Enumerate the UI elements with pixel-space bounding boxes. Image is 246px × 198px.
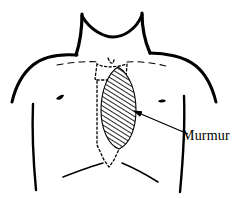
left-clavicle [57, 62, 100, 65]
right-clavicle [127, 62, 166, 66]
chest-murmur-figure: Murmur [0, 0, 246, 198]
right-costal-margin [122, 163, 158, 182]
murmur-label: Murmur [182, 129, 230, 143]
anatomy-illustration [0, 0, 246, 198]
right-nipple [158, 100, 166, 103]
suprasternal-notch [108, 58, 114, 63]
murmur-hatched-area [95, 60, 145, 160]
left-costal-margin [63, 163, 103, 177]
murmur-pointer-arrow [134, 111, 188, 134]
costal-margins [63, 163, 158, 182]
left-nipple [56, 95, 64, 100]
neck [76, 13, 150, 55]
